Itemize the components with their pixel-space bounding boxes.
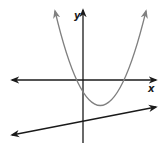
coordinate-plane: y x bbox=[0, 0, 163, 143]
y-axis-label: y bbox=[74, 10, 81, 21]
linear-function-line bbox=[12, 107, 156, 135]
x-axis-label: x bbox=[147, 83, 155, 94]
parabola-curve bbox=[55, 11, 146, 106]
